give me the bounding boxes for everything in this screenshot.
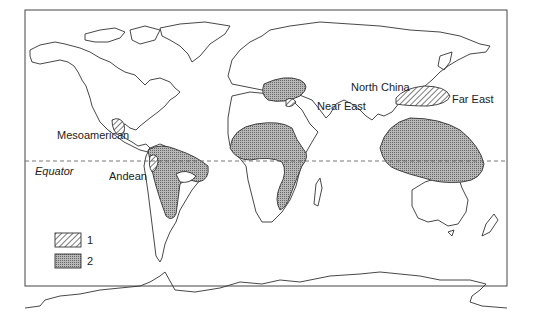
label-equator: Equator	[35, 166, 74, 177]
label-mesoamerican: Mesoamerican	[57, 130, 129, 141]
label-andean: Andean	[109, 171, 147, 182]
world-map	[0, 0, 536, 334]
legend-label-1: 1	[87, 235, 93, 246]
legend-label-2: 2	[87, 256, 93, 267]
label-far-east: Far East	[452, 94, 494, 105]
legend-swatch-hatched	[55, 233, 81, 247]
legend-swatch-dotted	[55, 254, 81, 268]
label-near-east: Near East	[317, 101, 366, 112]
label-north-china: North China	[351, 82, 410, 93]
